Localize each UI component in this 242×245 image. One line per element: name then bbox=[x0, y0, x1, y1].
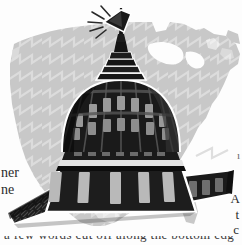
bleed-text-bottom-row: a few words cut off along the bottom edg… bbox=[4, 236, 234, 245]
capitol-base-colonnade bbox=[46, 160, 196, 212]
bleed-text-right-line-1: ı bbox=[237, 150, 240, 161]
capitol-dome-illustration bbox=[0, 0, 242, 245]
bleed-text-left-line-1: ner bbox=[1, 166, 19, 180]
bleed-text-bottom-line: a few words cut off along the bottom edg… bbox=[4, 236, 234, 243]
bleed-text-right-line-2: A bbox=[231, 192, 240, 205]
bleed-text-right-line-4: c bbox=[233, 223, 239, 236]
bleed-text-left-line-2: ne bbox=[1, 183, 14, 197]
illustration-canvas: ner ne ı A t c a few words cut off along… bbox=[0, 0, 242, 245]
bleed-text-right-line-3: t bbox=[235, 208, 239, 221]
